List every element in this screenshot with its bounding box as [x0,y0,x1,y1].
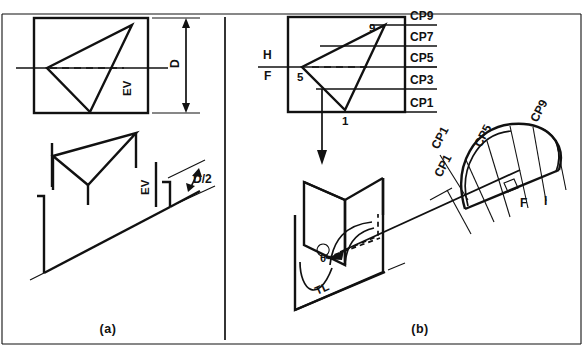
aux-plane-label-f: F [520,196,527,210]
dimension-d-half: D/2 [168,160,215,203]
panel-b-caption: (b) [411,322,428,336]
edge-view-label-a-pictorial: EV [139,179,151,195]
d-half-label: D/2 [193,172,212,186]
cp-label-cp9: CP9 [410,9,434,23]
panel-a-pictorial: EV D/2 (a) [30,133,215,336]
ev-label-top: EV [121,80,133,96]
panel-a-top-view: EV D [16,18,200,113]
vertex-label-9: 9 [369,22,375,34]
cp1-arrow-label: CP1 [428,124,451,151]
projection-arrow [317,89,327,165]
panel-b-auxiliary-view: CP1 CP5 CP9 F I [430,97,566,234]
d-dimension-label: D [168,59,182,68]
aux-label-cp9: CP9 [527,97,550,124]
vertex-label-1: 1 [342,115,349,127]
cp-label-cp5: CP5 [410,51,434,65]
panel-a-caption: (a) [100,322,117,336]
vertex-label-5: 5 [297,71,304,83]
aux-plane-label-i: I [544,194,547,208]
cp-label-cp7: CP7 [410,30,434,44]
engineering-drawing: EV D [0,0,583,351]
edge-view-label-a: EV [121,80,133,96]
figure-border [2,14,581,344]
cp-label-cp3: CP3 [410,73,434,87]
hf-reference-label: H F [263,48,272,83]
cp-label-cp1: CP1 [410,96,434,110]
figure-canvas: EV D [0,0,583,351]
theta-label: θ [320,252,326,264]
dimension-d: D [152,18,200,113]
aux-label-cp1: CP1 [431,152,454,179]
aux-label-cp5: CP5 [471,122,494,149]
triangle-plane-a-pictorial [53,133,136,185]
cp1-direction-arrow [326,155,520,260]
panel-b-pictorial: θ TL CP1 [295,124,520,310]
h-label: H [263,48,272,62]
panel-b-top-view: H F 5 9 1 CP9 CP7 CP5 [258,9,437,165]
ev-label-bottom: EV [139,179,151,195]
tl-label: TL [313,280,331,297]
f-label: F [264,69,271,83]
